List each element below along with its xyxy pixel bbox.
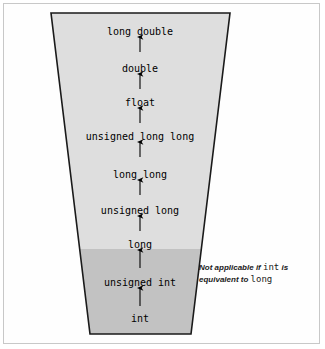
type-label-long-long: long long (113, 169, 167, 180)
annotation-line1-post: is (279, 263, 288, 272)
type-label-unsigned-long: unsigned long (101, 205, 179, 216)
type-label-int: int (131, 313, 149, 324)
type-label-long-double: long double (107, 26, 173, 37)
figure-page: long double double float unsigned long l… (0, 0, 325, 349)
type-label-long: long (128, 239, 152, 250)
type-label-unsigned-int: unsigned int (104, 277, 176, 288)
annotation-line1-pre: Not applicable if (199, 263, 263, 272)
annotation-line2-pre: equivalent to (199, 275, 251, 284)
annotation-code-int: int (263, 262, 279, 272)
type-label-float: float (125, 97, 155, 108)
annotation-note: Not applicable if int isequivalent to lo… (199, 262, 317, 285)
type-label-double: double (122, 63, 158, 74)
type-label-unsigned-long-long: unsigned long long (86, 131, 194, 142)
annotation-code-long: long (251, 274, 273, 284)
